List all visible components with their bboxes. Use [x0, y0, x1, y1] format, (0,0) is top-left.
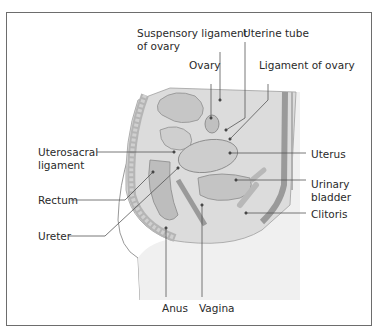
- label-ligament-of-ovary: Ligament of ovary: [259, 59, 355, 72]
- label-anus: Anus: [162, 302, 188, 315]
- label-uterosacral-ligament: Uterosacral ligament: [38, 146, 98, 171]
- label-uterus: Uterus: [311, 148, 346, 161]
- label-suspensory-ligament: Suspensory ligament of ovary: [137, 27, 248, 52]
- label-clitoris: Clitoris: [311, 208, 347, 221]
- label-ureter: Ureter: [38, 230, 71, 243]
- label-uterine-tube: Uterine tube: [243, 27, 309, 40]
- label-vagina: Vagina: [199, 302, 234, 315]
- label-urinary-bladder: Urinary bladder: [311, 178, 351, 203]
- label-rectum: Rectum: [38, 194, 78, 207]
- label-ovary: Ovary: [189, 59, 220, 72]
